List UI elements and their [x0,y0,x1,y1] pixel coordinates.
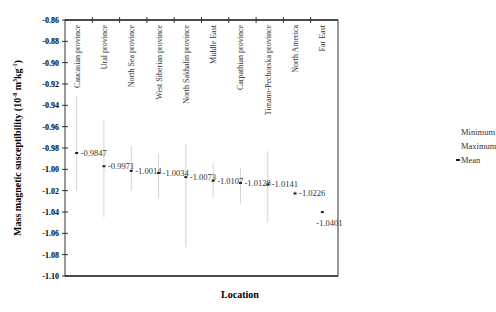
y-tick-label: -0.88 [42,37,59,46]
legend-mean-label: Mean [461,153,480,167]
value-label: -1.0073 [190,172,216,182]
legend: Minimum Maximum Mean [456,125,496,167]
y-tick-label: -1.06 [42,229,59,238]
mean-marker-icon [456,159,460,161]
legend-maximum: Maximum [456,139,496,153]
value-label: -1.0141 [272,179,298,189]
value-label: -1.0128 [244,178,270,188]
value-label: -0.9971 [108,161,134,171]
y-tick-label: -1.00 [42,165,59,174]
legend-maximum-label: Maximum [461,139,496,153]
category-label: Middle East [209,24,218,64]
category-labels: Caucasian provinceUral provinceNorth Sea… [73,24,328,115]
value-label: -1.0401 [316,218,342,228]
legend-minimum: Minimum [456,125,496,139]
value-label: -1.0107 [217,176,243,186]
category-label: Carpathian province [236,25,245,91]
category-label: North Sakhalin province [182,25,191,104]
y-axis-label: Mass magnetic susceptibility (10-8 m3kg-… [12,60,24,236]
y-tick-label: -1.04 [42,208,59,217]
mean-marker [75,152,78,154]
chart: -0.9847-0.9971-1.0014-1.0034-1.0073-1.01… [0,0,496,312]
category-label: West Siberian province [155,25,164,100]
y-tick-label: -1.02 [42,187,59,196]
y-tick-label: -0.90 [42,59,59,68]
value-label: -1.0226 [299,188,325,198]
legend-mean: Mean [456,153,496,167]
mean-marker [294,192,297,194]
category-label: Timano-Pechorska province [264,25,273,116]
y-tick-label: -0.86 [42,16,59,25]
y-axis: -0.86-0.88-0.90-0.92-0.94-0.96-0.98-1.00… [42,16,68,281]
category-label: North Sea province [127,25,136,88]
category-label: Caucasian province [73,25,82,88]
mean-marker [321,211,324,213]
value-label: -0.9847 [81,148,107,158]
legend-minimum-label: Minimum [461,125,495,139]
x-axis-label: Location [221,289,259,300]
y-tick-label: -0.98 [42,144,59,153]
category-label: North America [291,25,300,73]
mean-marker [102,165,105,167]
y-tick-label: -0.96 [42,123,59,132]
y-tick-label: -0.94 [42,101,59,110]
y-tick-label: -0.92 [42,80,59,89]
y-tick-label: -1.10 [42,272,59,281]
value-label: -1.0034 [163,168,190,178]
value-label: -1.0014 [135,166,162,176]
category-label: Far East [318,24,327,51]
value-labels: -0.9847-0.9971-1.0014-1.0034-1.0073-1.01… [81,148,343,228]
y-tick-label: -1.08 [42,251,59,260]
category-label: Ural province [100,25,109,70]
